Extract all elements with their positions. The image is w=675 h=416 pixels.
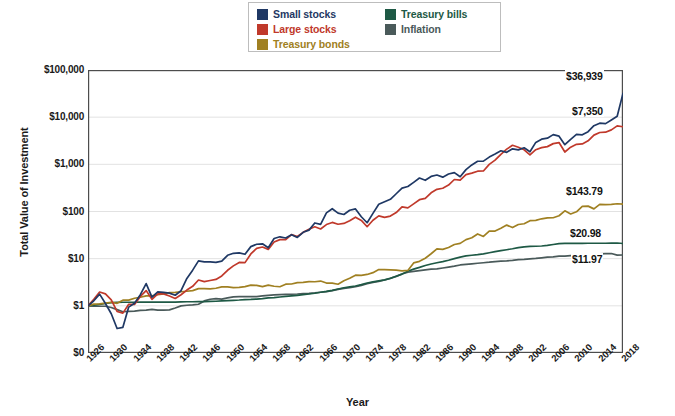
x-axis-tick-label: 2018: [619, 342, 641, 364]
x-axis-tick-label: 1946: [200, 342, 222, 364]
x-axis-tick-label: 1934: [131, 342, 153, 364]
x-axis-tick-label: 2010: [572, 342, 594, 364]
x-axis-tick-label: 1942: [177, 342, 199, 364]
series-end-value-label: $143.79: [565, 185, 604, 197]
x-axis-tick-label: 1954: [247, 342, 269, 364]
x-axis-tick-label: 1998: [503, 342, 525, 364]
x-axis-tick-label: 1962: [293, 342, 315, 364]
x-axis-tick-label: 1982: [410, 342, 432, 364]
x-axis-tick-label: 1958: [270, 342, 292, 364]
series-end-value-label: $11.97: [571, 253, 603, 265]
x-axis-tick-label: 1994: [479, 342, 501, 364]
series-end-value-label: $7,350: [571, 105, 604, 117]
x-axis-tick-label: 1974: [363, 342, 385, 364]
x-axis-tick-label: 2006: [549, 342, 571, 364]
x-axis-tick-label: 1926: [84, 342, 106, 364]
x-axis-tick-label: 1978: [386, 342, 408, 364]
series-end-value-label: $20.98: [569, 227, 602, 239]
x-axis-title: Year: [0, 396, 675, 408]
x-axis-tick-label: 1970: [340, 342, 362, 364]
x-axis-tick-label: 1986: [433, 342, 455, 364]
x-axis-tick-label: 2002: [526, 342, 548, 364]
x-axis-tick-label: 1990: [456, 342, 478, 364]
x-axis-tick-label: 1966: [317, 342, 339, 364]
x-axis-tick-label: 1930: [107, 342, 129, 364]
growth-of-investment-chart: Small stocksTreasury billsLarge stocksIn…: [0, 0, 675, 416]
x-axis-tick-labels: 1926193019341938194219461950195419581962…: [0, 0, 675, 416]
x-axis-tick-label: 1938: [154, 342, 176, 364]
x-axis-tick-label: 2014: [596, 342, 618, 364]
series-end-value-label: $36,939: [565, 70, 604, 82]
x-axis-tick-label: 1950: [224, 342, 246, 364]
